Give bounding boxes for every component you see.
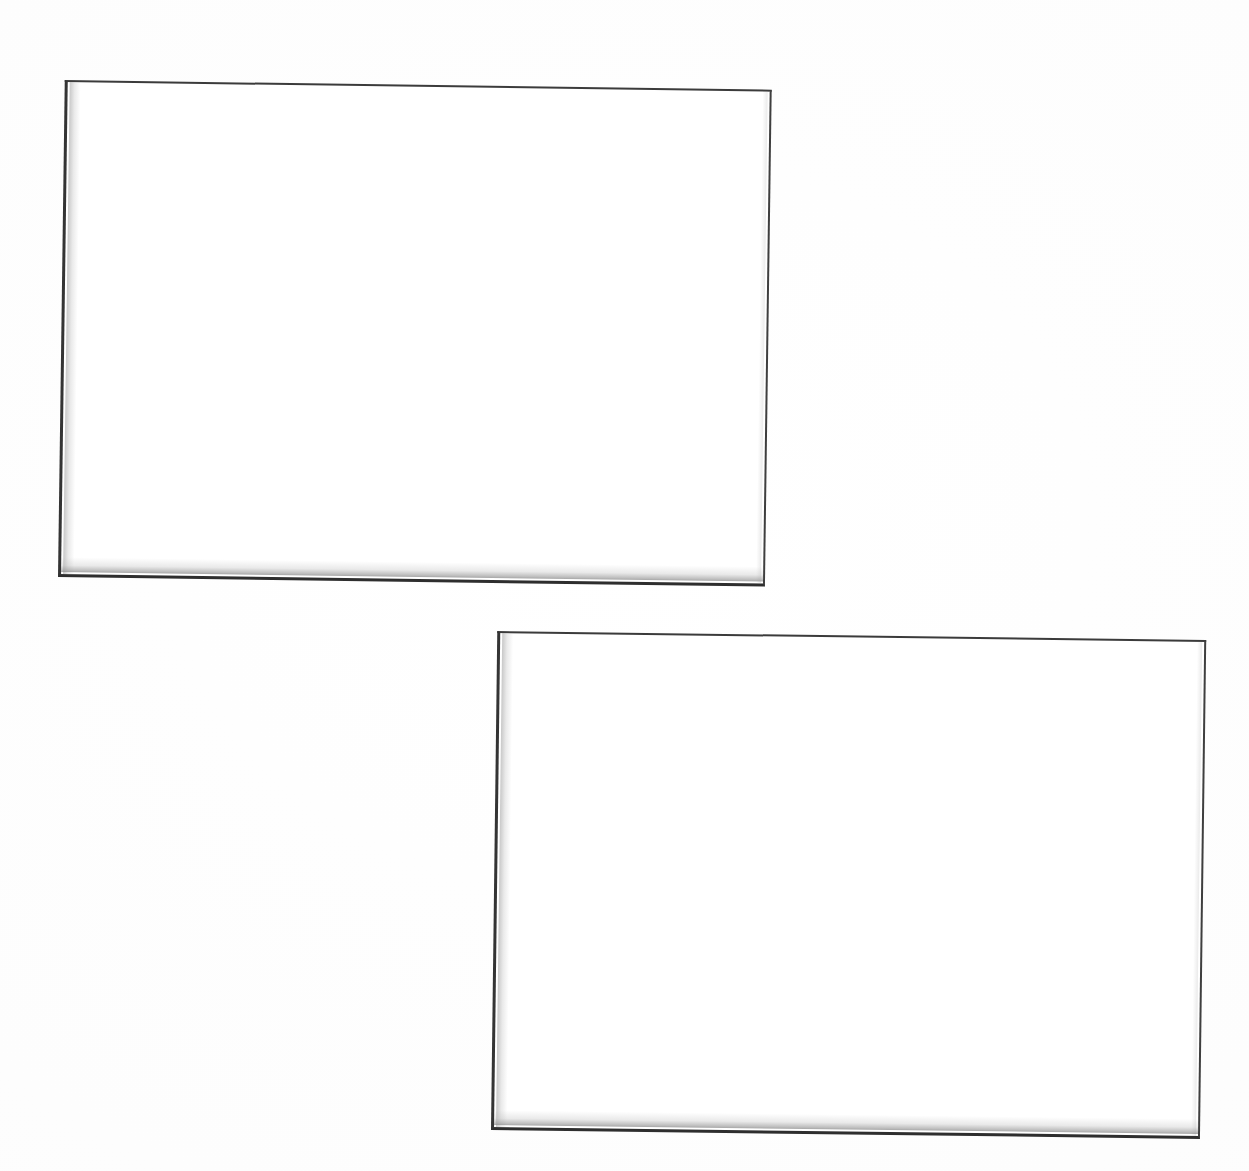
frame-content-upper-left [77, 96, 759, 565]
blank-figure-frame-lower-right [491, 631, 1206, 1139]
frame-border-lower-right [491, 631, 1206, 1139]
blank-figure-frame-upper-left [58, 80, 772, 587]
scanned-page [0, 0, 1249, 1171]
frame-border-upper-left [58, 80, 772, 587]
frame-content-lower-right [510, 647, 1194, 1117]
